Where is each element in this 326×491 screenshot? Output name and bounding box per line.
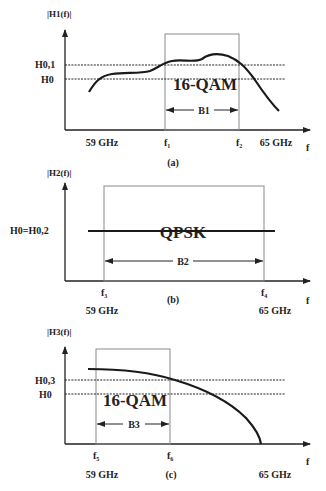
panel-c: |H3(f)| H0,3 H0 16-QAM B3 f5 f6 f 59 GHz… — [35, 327, 310, 481]
x-axis-label: f — [306, 295, 310, 306]
caption: (a) — [167, 157, 179, 169]
frequency-response-diagram: |H1(f)| H0,1 H0 16-QAM B1 59 GHz f1 f2 6… — [0, 0, 326, 491]
modulation-label: 16-QAM — [173, 75, 237, 94]
freq-label-high: 65 GHz — [260, 137, 293, 148]
band-end-label: f6 — [167, 450, 173, 462]
band-start-label: f5 — [93, 450, 99, 462]
y-axis-label: |H1(f)| — [47, 9, 71, 19]
panel-b: |H2(f)| H0=H0,2 QPSK B2 f3 f4 (b) f 59 G… — [10, 168, 310, 316]
bandwidth-label: B3 — [128, 419, 140, 430]
modulation-label: 16-QAM — [103, 391, 167, 410]
freq-label-low: 59 GHz — [86, 469, 119, 480]
caption: (b) — [167, 294, 179, 306]
panel-a: |H1(f)| H0,1 H0 16-QAM B1 59 GHz f1 f2 6… — [35, 9, 310, 169]
bandwidth-label: B1 — [198, 105, 210, 116]
band-start-label: f3 — [101, 287, 107, 299]
freq-label-high: 65 GHz — [259, 305, 292, 316]
freq-label-low: 59 GHz — [86, 137, 119, 148]
y-axis-label: |H3(f)| — [47, 327, 71, 337]
bandwidth-label: B2 — [177, 256, 189, 267]
x-axis-label: f — [306, 456, 310, 467]
level-label-h03: H0,3 — [35, 375, 55, 386]
level-label-h01: H0,1 — [35, 59, 55, 70]
caption: (c) — [165, 469, 176, 481]
band-end-label: f2 — [236, 137, 242, 149]
level-label-h0: H0 — [41, 74, 54, 85]
level-label-h0-h02: H0=H0,2 — [10, 225, 49, 236]
freq-label-low: 59 GHz — [86, 305, 119, 316]
band-end-label: f4 — [261, 287, 267, 299]
band-start-label: f1 — [164, 137, 170, 149]
modulation-label: QPSK — [160, 223, 207, 242]
y-axis-label: |H2(f)| — [47, 168, 71, 178]
x-axis-label: f — [306, 142, 310, 153]
level-label-h0: H0 — [39, 389, 52, 400]
freq-label-high: 65 GHz — [259, 469, 292, 480]
